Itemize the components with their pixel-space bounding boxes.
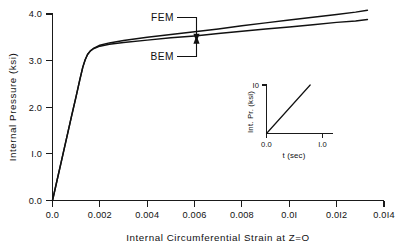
inset-y-tick-label: I0 bbox=[252, 81, 259, 90]
inset-x-tick-label-0: 0.0 bbox=[261, 140, 272, 149]
x-tick-label-7: 0.0I4 bbox=[373, 210, 394, 220]
x-tick-marks bbox=[53, 201, 385, 208]
figure-root: 0.0 I.0 2.0 3.0 4.0 0.00.0020.0040.0060.… bbox=[0, 0, 398, 249]
annotation-bem-leader bbox=[177, 41, 197, 57]
data-series-group bbox=[53, 10, 368, 200]
y-tick-label-0: 0.0 bbox=[29, 196, 42, 206]
annotation-bem-arrowhead bbox=[193, 36, 199, 44]
y-tick-label-3: 3.0 bbox=[29, 56, 42, 66]
y-tick-label-1: I.0 bbox=[31, 149, 42, 159]
x-tick-label-4: 0.008 bbox=[230, 210, 254, 220]
curve-bem bbox=[53, 20, 368, 201]
main-axes bbox=[53, 14, 385, 201]
y-tick-labels: 0.0 I.0 2.0 3.0 4.0 bbox=[29, 9, 42, 205]
inset-y-axis-title: Int. Pr. (ksi) bbox=[246, 91, 255, 133]
inset-pressure-ramp bbox=[267, 85, 311, 134]
curve-fem bbox=[53, 10, 368, 200]
y-axis-title: Internal Pressure (ksi) bbox=[7, 53, 18, 161]
x-tick-labels: 0.00.0020.0040.0060.0080.0I0.0I20.0I4 bbox=[46, 210, 395, 220]
inset-x-axis-title: t (sec) bbox=[283, 151, 306, 160]
inset-x-tick-label-1: I.0 bbox=[318, 140, 327, 149]
y-tick-label-4: 4.0 bbox=[29, 9, 42, 19]
x-axis-title: Internal Circumferential Strain at Z=O bbox=[126, 232, 309, 243]
x-tick-label-6: 0.0I2 bbox=[326, 210, 347, 220]
chart-canvas: 0.0 I.0 2.0 3.0 4.0 0.00.0020.0040.0060.… bbox=[0, 0, 398, 249]
x-tick-label-3: 0.006 bbox=[183, 210, 207, 220]
x-tick-label-1: 0.002 bbox=[88, 210, 112, 220]
y-tick-label-2: 2.0 bbox=[29, 103, 42, 113]
x-tick-label-2: 0.004 bbox=[135, 210, 159, 220]
x-tick-label-5: 0.0I bbox=[281, 210, 297, 220]
annotation-bem-label: BEM bbox=[150, 51, 174, 62]
y-tick-marks bbox=[46, 14, 53, 201]
annotation-fem-label: FEM bbox=[151, 12, 174, 23]
x-tick-label-0: 0.0 bbox=[46, 210, 59, 220]
inset-chart: I0 0.0 I.0 t (sec) Int. Pr. (ksi) bbox=[246, 81, 333, 160]
